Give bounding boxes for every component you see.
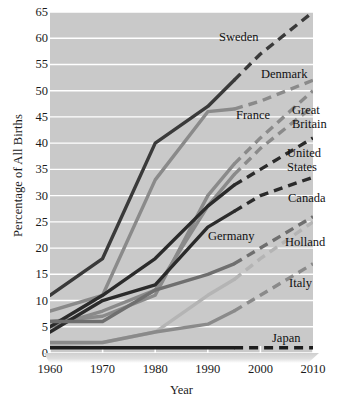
y-axis-tick-labels: 05101520253035404550556065	[0, 0, 48, 405]
birth-percentage-line-chart: Percentage of All Births 051015202530354…	[0, 0, 348, 405]
y-tick-label: 45	[2, 111, 48, 124]
axis-base-shadow	[44, 353, 319, 363]
series-line-germany	[50, 264, 234, 322]
x-tick-label: 1960	[23, 362, 77, 377]
y-tick-label: 40	[2, 137, 48, 150]
series-label-germany: Germany	[208, 230, 255, 244]
x-axis-title: Year	[50, 383, 313, 398]
series-label-holland: Holland	[285, 236, 325, 250]
y-tick-label: 25	[2, 216, 48, 229]
y-tick-label: 5	[2, 321, 48, 334]
series-label-japan: Japan	[272, 332, 300, 346]
y-tick-label: 50	[2, 84, 48, 97]
series-label-italy: Italy	[289, 277, 312, 291]
y-tick-label: 15	[2, 268, 48, 281]
x-tick-label: 2000	[233, 362, 287, 377]
x-tick-label: 1970	[76, 362, 130, 377]
x-tick-label: 1980	[128, 362, 182, 377]
y-tick-label: 35	[2, 163, 48, 176]
x-tick-label: 2010	[286, 362, 340, 377]
y-tick-label: 30	[2, 189, 48, 202]
series-line-canada	[50, 211, 234, 332]
y-tick-label: 10	[2, 294, 48, 307]
series-label-great-britain: Great Britain	[292, 104, 327, 131]
plot-area	[50, 12, 313, 353]
y-tick-label: 0	[2, 347, 48, 360]
y-tick-label: 55	[2, 58, 48, 71]
series-lines	[50, 12, 313, 348]
y-tick-label: 65	[2, 6, 48, 19]
series-label-denmark: Denmark	[261, 68, 308, 82]
y-tick-label: 60	[2, 32, 48, 45]
series-label-sweden: Sweden	[219, 31, 259, 45]
y-tick-label: 20	[2, 242, 48, 255]
plot-canvas	[50, 12, 313, 353]
x-tick-label: 1990	[181, 362, 235, 377]
series-label-united-states: United States	[287, 147, 321, 174]
series-label-france: France	[236, 109, 270, 123]
series-label-canada: Canada	[288, 192, 325, 206]
